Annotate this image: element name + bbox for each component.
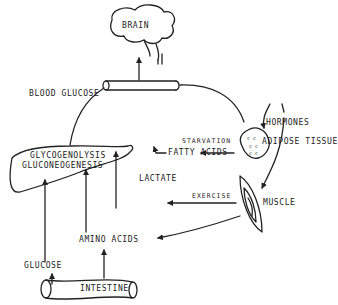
arrow-fatty-acids-to-liver — [154, 147, 166, 153]
intestine-label: INTESTINE — [80, 285, 129, 293]
brain-shape — [111, 5, 175, 64]
lactate-label: LACTATE — [139, 175, 177, 183]
arrow-hormones-to-muscle — [262, 104, 284, 188]
gluconeogenesis-label: GLUCONEOGENESIS — [22, 162, 103, 170]
muscle-shape — [240, 176, 262, 232]
svg-text:c c: c c — [249, 150, 258, 156]
exercise-label: EXERCISE — [192, 193, 231, 200]
starvation-label: STARVATION — [182, 138, 231, 145]
svg-text:c c: c c — [249, 143, 258, 149]
muscle-label: MUSCLE — [263, 199, 296, 207]
brain-label: BRAIN — [122, 22, 149, 30]
amino-acids-label: AMINO ACIDS — [79, 236, 139, 244]
glycogenolysis-label: GLYCOGENOLYSIS — [30, 152, 106, 160]
arrow-vessel-to-adipose — [180, 85, 244, 122]
hormones-label: HORMONES — [266, 119, 309, 127]
glucose-label: GLUCOSE — [24, 262, 62, 270]
svg-text:c c: c c — [247, 135, 256, 141]
blood-glucose-label: BLOOD GLUCOSE — [29, 90, 99, 98]
fatty-acids-label: FATTY ACIDS — [168, 149, 228, 157]
arrow-to-amino-acids — [158, 216, 240, 238]
adipose-tissue-label: ADIPOSE TISSUE — [262, 138, 338, 146]
blood-vessel-shape — [103, 81, 179, 90]
